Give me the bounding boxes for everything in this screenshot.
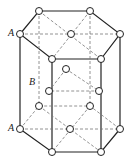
hcp-unit-cell-diagram: A B A [0, 0, 130, 160]
label-top-a: A [8, 27, 14, 38]
label-bottom-a: A [8, 122, 14, 133]
hexagonal-prism [0, 0, 130, 160]
label-mid-b: B [29, 76, 35, 87]
